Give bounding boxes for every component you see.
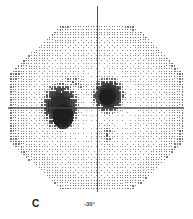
- grayscale-field-plot: [8, 6, 184, 192]
- panel-label: C: [32, 198, 40, 209]
- axis-label-inferior: -30°: [84, 201, 95, 207]
- field-heatmap-canvas: [8, 6, 184, 192]
- visual-field-figure: C -30°: [0, 0, 193, 219]
